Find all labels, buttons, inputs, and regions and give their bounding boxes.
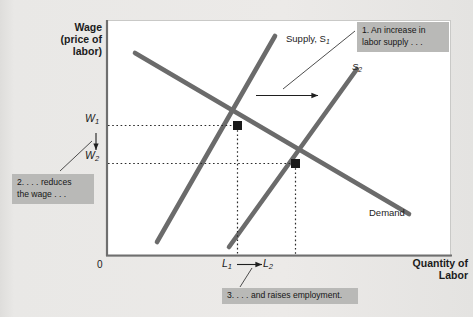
w1-label: W1 [85,113,99,125]
callout-3-leader [240,268,252,287]
equilibrium-point-1 [233,121,242,130]
l1-label: L1 [222,258,232,270]
l1-label-text: L [222,257,228,269]
callout-increase-labor-supply: 1. An increase in labor supply . . . [357,22,449,52]
l2-label-text: L [263,257,269,269]
demand-curve-label: Demand [369,208,405,219]
callout-reduces-wage: 2. . . . reduces the wage . . . [12,174,94,204]
y-axis-title: Wage (price of labor) [40,22,102,57]
w2-label: W2 [85,150,99,162]
supply-curve-s2-label: S2 [352,62,362,73]
supply-curve-s1-label-subscript: 1 [326,38,330,45]
supply-curve-s1-label: Supply, S1 [286,34,330,45]
supply-curve-s2-label-subscript: 2 [358,66,362,73]
w2-label-text: W [85,149,95,161]
labor-market-figure: Wage (price of labor) Quantity of Labor … [0,0,473,317]
equilibrium-point-2 [291,159,300,168]
l2-label: L2 [263,258,273,270]
w2-label-subscript: 2 [95,154,99,163]
supply-curve-s1-label-text: Supply, S [286,33,326,44]
l2-label-subscript: 2 [269,262,273,271]
x-axis-title: Quantity of Labor [390,258,468,282]
callout-raises-employment: 3. . . . and raises employment. [222,288,358,304]
origin-label: 0 [97,259,103,270]
w1-label-text: W [85,112,95,124]
l1-label-subscript: 1 [228,262,232,271]
w1-label-subscript: 1 [95,117,99,126]
